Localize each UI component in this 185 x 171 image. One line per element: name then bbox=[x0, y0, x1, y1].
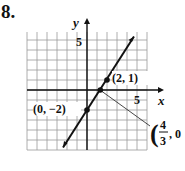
svg-text:, 0: , 0 bbox=[169, 127, 181, 141]
x-axis bbox=[27, 87, 164, 93]
y-axis-arrow-icon bbox=[84, 18, 90, 24]
x-axis-label: x bbox=[157, 93, 165, 108]
svg-text:(: ( bbox=[150, 119, 159, 148]
point-0-neg2 bbox=[84, 107, 90, 113]
y-tick-5: 5 bbox=[76, 35, 82, 49]
label-2-1: (2, 1) bbox=[112, 71, 138, 85]
point-2-1 bbox=[104, 77, 110, 83]
point-4-3-0 bbox=[98, 87, 104, 93]
y-axis-label: y bbox=[71, 15, 79, 30]
label-0-neg2: (0, −2) bbox=[33, 102, 66, 116]
svg-text:3: 3 bbox=[160, 134, 166, 148]
x-tick-5: 5 bbox=[134, 93, 140, 107]
graph: y x 5 5 (2, 1) (0, −2) ( 4 3 , 0 bbox=[0, 0, 185, 171]
leader-line bbox=[100, 90, 150, 126]
label-4-3-0: ( 4 3 , 0 bbox=[150, 118, 181, 148]
svg-text:4: 4 bbox=[160, 118, 166, 132]
